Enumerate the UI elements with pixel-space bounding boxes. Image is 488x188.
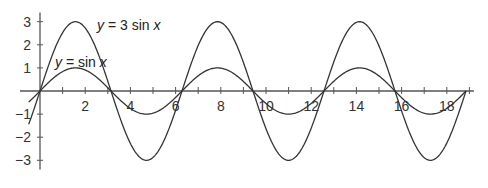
x-tick-label: 10 [258,98,274,114]
y-tick-label: −2 [15,129,31,145]
x-tick-label: 14 [349,98,365,114]
y-tick-label: −3 [15,152,31,168]
y-tick-label: 1 [23,60,31,76]
x-tick-label: 2 [81,98,89,114]
x-tick-label: 12 [303,98,319,114]
y-tick-label: 3 [23,14,31,30]
x-tick-label: 18 [439,98,455,114]
axes [20,12,474,169]
x-tick-label: 16 [394,98,410,114]
y-tick-label: 2 [23,37,31,53]
label-3sinx: y = 3 sin x [96,17,161,33]
x-tick-label: 8 [217,98,225,114]
x-tick-label: 4 [127,98,135,114]
y-tick-label: −1 [15,106,31,122]
label-sinx: y = sin x [54,54,108,70]
sine-chart: 24681012141618−3−2−1123 y = 3 sin x y = … [0,0,488,188]
x-tick-label: 6 [172,98,180,114]
